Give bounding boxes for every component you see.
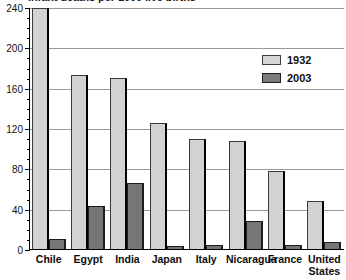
- bar-france-1932: [268, 171, 285, 249]
- bar-india-2003: [127, 183, 144, 249]
- x-axis-label: Chile: [29, 253, 68, 265]
- legend: 19322003: [262, 53, 311, 89]
- y-tick-label: 80: [12, 164, 23, 175]
- x-axis-label: Nicaragua: [226, 253, 265, 265]
- bar-japan-1932: [150, 123, 167, 249]
- legend-label: 2003: [287, 72, 311, 84]
- bar-nicaragua-1932: [229, 141, 246, 249]
- legend-item: 2003: [262, 71, 311, 85]
- y-tick-label: 160: [6, 83, 23, 94]
- bar-united-states-1932: [307, 201, 324, 249]
- bar-egypt-2003: [88, 206, 105, 249]
- y-tick-major: [25, 250, 30, 251]
- chart-screenshot: Infant deaths per 1000 live births 04080…: [0, 0, 346, 280]
- y-tick-label: 120: [6, 124, 23, 135]
- bars-layer: [30, 8, 344, 249]
- bar-india-1932: [110, 78, 127, 249]
- y-tick-label: 0: [17, 245, 23, 256]
- dark-gray-swatch: [262, 73, 281, 83]
- bar-nicaragua-2003: [246, 221, 263, 249]
- bar-chile-2003: [49, 239, 66, 249]
- plot-area: 04080120160200240: [29, 8, 344, 250]
- bar-chile-1932: [32, 8, 49, 249]
- y-tick-label: 240: [6, 3, 23, 14]
- x-axis-label: Italy: [187, 253, 226, 265]
- y-tick-label: 40: [12, 204, 23, 215]
- bar-united-states-2003: [324, 242, 341, 249]
- legend-label: 1932: [287, 54, 311, 66]
- x-axis-label: India: [108, 253, 147, 265]
- chart-title: Infant deaths per 1000 live births: [28, 0, 196, 3]
- light-gray-swatch: [262, 55, 281, 65]
- bar-japan-2003: [167, 246, 184, 249]
- x-axis-label: Egypt: [68, 253, 107, 265]
- bar-italy-2003: [206, 245, 223, 249]
- x-axis-label: Japan: [147, 253, 186, 265]
- legend-item: 1932: [262, 53, 311, 67]
- bar-egypt-1932: [71, 75, 88, 249]
- x-axis-label: France: [265, 253, 304, 265]
- bar-italy-1932: [189, 139, 206, 249]
- bar-france-2003: [285, 245, 302, 249]
- y-tick-label: 200: [6, 43, 23, 54]
- x-axis-label: United States: [305, 253, 344, 277]
